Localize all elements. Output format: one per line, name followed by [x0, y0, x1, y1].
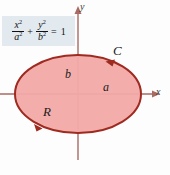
denominator-b: b2 — [36, 31, 48, 43]
x-axis-label: x — [156, 87, 160, 97]
equation-plus-operator: + — [27, 26, 33, 37]
equation-equals-sign: = — [51, 26, 57, 37]
denominator-a: a2 — [12, 31, 24, 43]
numerator-x-exponent: 2 — [19, 18, 22, 25]
numerator-y-exponent: 2 — [43, 18, 46, 25]
fraction-x-over-a: x2 a2 — [12, 20, 24, 42]
fraction-y-over-b: y2 b2 — [36, 20, 48, 42]
ellipse-figure: x2 a2 + y2 b2 = 1 C R a b x y — [0, 0, 170, 175]
semi-minor-axis-label-b: b — [65, 68, 71, 80]
curve-label-c: C — [113, 44, 122, 57]
semi-major-axis-label-a: a — [103, 81, 109, 93]
denominator-b-exponent: 2 — [43, 29, 46, 36]
equation-right-hand-side: 1 — [61, 26, 66, 37]
equation-box: x2 a2 + y2 b2 = 1 — [2, 16, 75, 46]
y-axis-label: y — [80, 2, 84, 12]
denominator-a-exponent: 2 — [19, 29, 22, 36]
region-label-r: R — [43, 105, 51, 118]
ellipse-region — [15, 55, 141, 133]
ellipse-equation: x2 a2 + y2 b2 = 1 — [11, 20, 65, 42]
